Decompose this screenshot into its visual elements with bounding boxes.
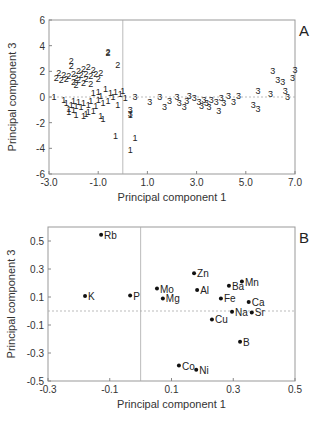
y-tick-label: -0.3 <box>27 348 45 359</box>
element-point-marker <box>155 287 159 291</box>
element-point-marker <box>194 368 198 372</box>
data-point-group-1: 1 <box>133 133 138 143</box>
data-point-group-1: 1 <box>128 145 133 155</box>
element-point-marker <box>250 310 254 314</box>
data-point-group-2: 2 <box>88 79 93 89</box>
y-tick-label: 2 <box>39 66 45 77</box>
element-point-label: Fe <box>224 293 236 304</box>
element-point-marker <box>192 271 196 275</box>
element-point-marker <box>240 280 244 284</box>
data-point-group-3: 3 <box>157 92 162 102</box>
element-point-label: K <box>88 291 95 302</box>
y-tick-label: -6 <box>36 169 45 180</box>
element-point-label: Cu <box>215 314 228 325</box>
x-tick-label: 5.0 <box>239 177 253 188</box>
element-point-marker <box>177 364 181 368</box>
data-point-group-3: 3 <box>256 86 261 96</box>
x-axis-title: Principal component 1 <box>117 398 226 410</box>
element-point-label: Ca <box>252 297 265 308</box>
data-point-group-3: 3 <box>292 65 297 75</box>
data-point-group-2: 2 <box>115 60 120 70</box>
element-point-marker <box>230 310 234 314</box>
y-tick-label: -4 <box>36 143 45 154</box>
element-point-marker <box>195 288 199 292</box>
element-point-label: Al <box>200 285 209 296</box>
panel-label: A <box>299 22 309 39</box>
x-tick-label: -0.1 <box>101 384 119 395</box>
element-point-marker <box>83 294 87 298</box>
element-point-marker <box>238 340 242 344</box>
x-tick-label: 0.5 <box>288 384 302 395</box>
y-tick-label: -0.1 <box>27 320 45 331</box>
data-point-group-1: 1 <box>123 93 128 103</box>
data-point-group-1: 1 <box>113 131 118 141</box>
y-tick-label: 6 <box>39 15 45 26</box>
element-point-label: Sr <box>255 307 266 318</box>
figure: -3.0-1.01.03.05.07.0-6-4-20246Principal … <box>0 0 321 422</box>
element-point-label: Na <box>235 307 248 318</box>
data-point-group-2: 2 <box>106 48 111 58</box>
data-point-group-3: 3 <box>268 89 273 99</box>
y-tick-label: -0.5 <box>27 376 45 387</box>
y-tick-label: 0.3 <box>30 264 44 275</box>
element-point-label: Mn <box>245 277 259 288</box>
y-tick-label: 0 <box>39 92 45 103</box>
data-point-group-3: 3 <box>128 109 133 119</box>
element-point-label: Co <box>182 361 195 372</box>
data-point-group-2: 2 <box>98 68 103 78</box>
y-tick-label: -2 <box>36 118 45 129</box>
x-axis-title: Principal component 1 <box>118 191 227 203</box>
y-axis-title: Principal component 3 <box>5 250 17 359</box>
x-tick-label: 0.3 <box>226 384 240 395</box>
x-tick-label: 0.1 <box>165 384 179 395</box>
element-point-label: Ni <box>199 365 208 376</box>
element-point-marker <box>227 284 231 288</box>
data-point-group-3: 3 <box>147 97 152 107</box>
data-point-group-3: 3 <box>236 91 241 101</box>
element-point-marker <box>161 296 165 300</box>
data-point-group-1: 1 <box>101 114 106 124</box>
data-point-group-1: 1 <box>115 100 120 110</box>
element-point-marker <box>210 317 214 321</box>
element-point-marker <box>247 300 251 304</box>
element-point-label: B <box>243 337 250 348</box>
y-tick-label: 0.5 <box>30 236 44 247</box>
x-tick-label: 7.0 <box>288 177 302 188</box>
x-tick-label: 3.0 <box>190 177 204 188</box>
x-tick-label: -1.0 <box>90 177 108 188</box>
element-point-label: Zn <box>197 268 209 279</box>
y-tick-label: 0.1 <box>30 292 44 303</box>
element-point-marker <box>219 296 223 300</box>
x-tick-label: 1.0 <box>140 177 154 188</box>
element-point-label: Mg <box>166 293 180 304</box>
y-tick-label: 4 <box>39 41 45 52</box>
panel-b-scatter: -0.3-0.10.10.30.5-0.5-0.3-0.10.10.30.5Pr… <box>5 227 309 410</box>
data-point-group-1: 1 <box>81 111 86 121</box>
panel-a-scatter: -3.0-1.01.03.05.07.0-6-4-20246Principal … <box>6 15 309 203</box>
element-point-marker <box>128 294 132 298</box>
data-point-group-3: 3 <box>285 92 290 102</box>
element-point-marker <box>99 233 103 237</box>
panel-label: B <box>299 229 309 246</box>
data-point-group-1: 1 <box>51 92 56 102</box>
element-point-label: P <box>133 291 140 302</box>
data-point-group-3: 3 <box>167 96 172 106</box>
data-point-group-3: 3 <box>133 92 138 102</box>
data-point-group-3: 3 <box>256 104 261 114</box>
y-axis-title: Principal component 3 <box>6 43 18 152</box>
element-point-label: Rb <box>104 230 117 241</box>
